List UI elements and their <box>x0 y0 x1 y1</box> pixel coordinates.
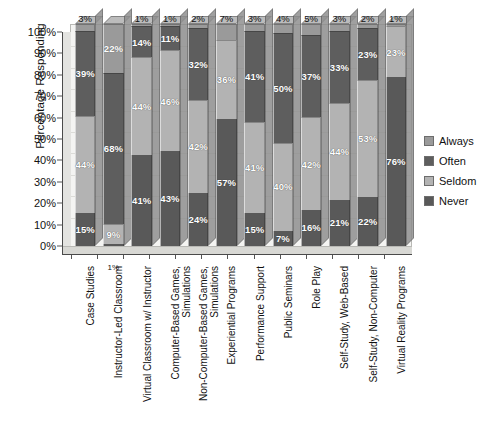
bar-slot: 24%42%32% <box>184 24 212 246</box>
bar-segment-seldom[interactable]: 46% <box>160 50 180 151</box>
bar-segment-never[interactable]: 41% <box>131 155 151 246</box>
stacked-bar[interactable]: 22%53%23% <box>357 24 377 246</box>
bar-segment-always[interactable] <box>188 24 208 28</box>
bar-segment-always[interactable] <box>329 24 349 31</box>
bar-slot: 15%41%41% <box>241 24 269 246</box>
stacked-bar[interactable]: 16%42%37% <box>301 24 321 246</box>
stacked-bar[interactable]: 7%40%50% <box>273 24 293 246</box>
y-axis-line <box>62 32 63 255</box>
bar-segment-never[interactable]: 15% <box>244 213 264 246</box>
bar-segment-seldom[interactable]: 44% <box>75 116 95 213</box>
stacked-bar-chart: Percentage Responding 0%10%20%30%40%50%6… <box>0 0 489 426</box>
bar-segment-value-label: 33% <box>330 63 349 73</box>
bar-segment-seldom[interactable]: 23% <box>386 26 406 77</box>
bar-segment-value-label: 44% <box>330 147 349 157</box>
stacked-bar[interactable]: 41%44%14% <box>131 24 151 246</box>
bar-segment-often[interactable]: 33% <box>329 31 349 104</box>
y-axis-tick-label: 30% <box>34 176 56 188</box>
bar-segment-never[interactable]: 7% <box>273 231 293 246</box>
bar-segment-often[interactable]: 11% <box>160 26 180 50</box>
legend-item-always[interactable]: Always <box>424 134 488 147</box>
bar-segment-never[interactable] <box>103 244 123 246</box>
bar-segment-often[interactable]: 68% <box>103 73 123 224</box>
x-axis-category-label: Self-Study, Web-Based <box>339 266 350 414</box>
bar-segment-seldom[interactable]: 44% <box>329 103 349 200</box>
bar-segment-value-label: 44% <box>132 102 151 112</box>
bar-slot: 22%53%23% <box>354 24 382 246</box>
bar-segment-seldom[interactable]: 36% <box>216 40 236 120</box>
bar-segment-often[interactable]: 50% <box>273 33 293 143</box>
bar-segment-always[interactable] <box>386 24 406 26</box>
bar-segment-never[interactable]: 43% <box>160 151 180 246</box>
bar-segment-seldom[interactable]: 41% <box>244 122 264 213</box>
bar-segment-seldom[interactable]: 44% <box>131 57 151 155</box>
bar-segment-always[interactable] <box>160 24 180 26</box>
bar-segment-always[interactable]: 22% <box>103 24 123 73</box>
x-axis-category-label: Case Studies <box>85 266 96 414</box>
x-label-slot: Self-Study, Non-Computer <box>354 266 382 416</box>
bar-segment-often[interactable]: 37% <box>301 35 321 117</box>
top-callout-slot: 4% <box>269 8 297 22</box>
x-label-slot: Instructor-Led Classroom <box>99 266 127 416</box>
bar-segment-value-label: 9% <box>107 230 121 240</box>
bar-segment-often[interactable]: 41% <box>244 31 264 122</box>
y-axis-tick-label: 0% <box>40 240 56 252</box>
bar-segment-value-label: 15% <box>245 225 264 235</box>
y-axis-tick-label: 100% <box>28 26 56 38</box>
bar-segment-often[interactable]: 14% <box>131 26 151 57</box>
legend-label: Often <box>439 155 466 167</box>
bar-segment-always[interactable] <box>216 24 236 40</box>
bar-segment-seldom[interactable]: 53% <box>357 80 377 198</box>
stacked-bar[interactable]: 15%41%41% <box>244 24 264 246</box>
bar-segment-always[interactable] <box>357 24 377 28</box>
bar-segment-often[interactable]: 23% <box>357 28 377 79</box>
stacked-bar[interactable]: 57%36% <box>216 24 236 246</box>
bar-slot: 7%40%50% <box>269 24 297 246</box>
top-callout-slot: 5% <box>297 8 325 22</box>
bar-segment-value-label: 53% <box>358 134 377 144</box>
bar-segment-value-label: 22% <box>358 217 377 227</box>
x-axis-category-label: Role Play <box>311 266 322 414</box>
x-axis-category-label: Virtual Classroom w/ Instructor <box>142 266 153 414</box>
bar-segment-often[interactable]: 32% <box>188 28 208 99</box>
legend-label: Seldom <box>439 175 476 187</box>
legend-item-seldom[interactable]: Seldom <box>424 174 488 187</box>
bar-segment-value-label: 21% <box>330 218 349 228</box>
bar-segment-never[interactable]: 21% <box>329 200 349 246</box>
x-axis-category-label: Public Seminars <box>283 266 294 414</box>
x-label-slot: Performance Support <box>241 266 269 416</box>
bar-segment-always[interactable] <box>273 24 293 33</box>
stacked-bar[interactable]: 76%23% <box>386 24 406 246</box>
y-axis-tick-label: 50% <box>34 133 56 145</box>
bar-segment-never[interactable]: 76% <box>386 77 406 246</box>
bar-segment-seldom[interactable]: 9% <box>103 224 123 244</box>
legend-item-never[interactable]: Never <box>424 194 488 207</box>
chart-legend: AlwaysOftenSeldomNever <box>424 134 488 214</box>
bar-segment-often[interactable]: 39% <box>75 31 95 117</box>
bar-segment-seldom[interactable]: 40% <box>273 143 293 231</box>
always-value-callout: 1% <box>163 13 177 24</box>
bar-segment-always[interactable] <box>75 24 95 31</box>
stacked-bar[interactable]: 15%44%39% <box>75 24 95 246</box>
x-axis-category-label: Virtual Reality Programs <box>396 266 407 414</box>
stacked-bar[interactable]: 21%44%33% <box>329 24 349 246</box>
legend-item-often[interactable]: Often <box>424 154 488 167</box>
stacked-bar[interactable]: 24%42%32% <box>188 24 208 246</box>
stacked-bar[interactable]: 9%68%22% <box>103 24 123 246</box>
y-axis-tick-label: 10% <box>34 219 56 231</box>
stacked-bar[interactable]: 43%46%11% <box>160 24 180 246</box>
bar-segment-never[interactable]: 22% <box>357 197 377 246</box>
bar-segment-always[interactable] <box>301 24 321 35</box>
bar-segment-never[interactable]: 15% <box>75 213 95 246</box>
bar-segment-never[interactable]: 57% <box>216 119 236 246</box>
bar-segment-never[interactable]: 16% <box>301 210 321 246</box>
bar-segment-value-label: 57% <box>217 178 236 188</box>
bar-segment-always[interactable] <box>131 24 151 26</box>
bar-segment-never[interactable]: 24% <box>188 193 208 246</box>
x-label-slot: Computer-Based Games, Simulations <box>156 266 184 416</box>
bar-segment-seldom[interactable]: 42% <box>188 100 208 193</box>
bar-segment-seldom[interactable]: 42% <box>301 117 321 210</box>
bar-segment-always[interactable] <box>244 24 264 31</box>
x-label-slot: Case Studies <box>71 266 99 416</box>
bar-segment-value-label: 23% <box>358 50 377 60</box>
